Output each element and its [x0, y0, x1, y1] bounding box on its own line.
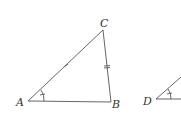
- label-b: B: [111, 98, 120, 111]
- angle-tick-d: [167, 93, 172, 94]
- angle-arc-a: [41, 90, 44, 101]
- tick-bc-2: [104, 68, 110, 69]
- label-a: A: [15, 96, 24, 109]
- label-c: C: [100, 17, 109, 30]
- label-d: D: [142, 95, 152, 108]
- triangle-abc: [28, 30, 111, 102]
- side-d-upper: [156, 77, 181, 99]
- angle-tick-a: [40, 94, 45, 95]
- triangle-diagram: C A B D: [0, 0, 181, 131]
- tick-bc-1: [104, 66, 110, 67]
